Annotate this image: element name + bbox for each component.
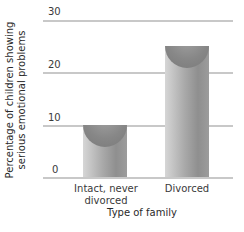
y-axis-label-line-2: serious emotional problems (16, 20, 28, 180)
bar-cap (165, 46, 209, 68)
gridline-0 (43, 177, 233, 179)
y-tick-20: 20 (48, 59, 61, 71)
y-tick-0: 0 (52, 164, 58, 176)
bar-intact-never-divorced (83, 125, 127, 177)
bar-cap (83, 125, 127, 147)
x-tick-intact-never-divorced: Intact, never divorced (70, 183, 142, 207)
x-axis-label: Type of family (0, 207, 244, 218)
y-tick-10: 10 (48, 112, 61, 124)
y-axis-label: Percentage of children showing serious e… (4, 20, 28, 180)
bar-divorced (165, 46, 209, 177)
y-tick-30: 30 (48, 6, 61, 18)
y-axis-label-line-1: Percentage of children showing (4, 20, 16, 180)
x-tick-line-2: divorced (70, 195, 142, 207)
x-tick-line-1: Intact, never (70, 183, 142, 195)
bar-chart: 30 20 10 0 Percentage of children showin… (0, 0, 244, 232)
gridline-30 (43, 20, 233, 22)
x-tick-divorced: Divorced (155, 183, 219, 195)
